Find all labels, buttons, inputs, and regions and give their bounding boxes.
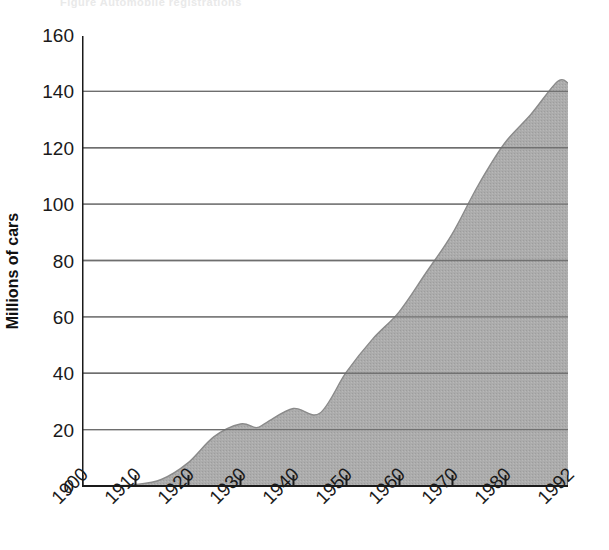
x-tick-label-1970: 1970 [418,464,461,507]
x-tick-label-1940: 1940 [259,464,302,507]
x-tick-label-1992: 1992 [534,464,577,507]
x-tick-label-1950: 1950 [312,464,355,507]
x-axis-tick-labels: 1900191019201930194019501960197019801992 [0,0,609,550]
x-tick-label-1930: 1930 [206,464,249,507]
x-tick-label-1980: 1980 [471,464,514,507]
x-tick-label-1960: 1960 [365,464,408,507]
x-tick-label-1910: 1910 [101,464,144,507]
x-tick-label-1920: 1920 [154,464,197,507]
chart-figure: Figure Automobile registrations Millions… [0,0,609,550]
x-tick-label-1900: 1900 [48,464,91,507]
